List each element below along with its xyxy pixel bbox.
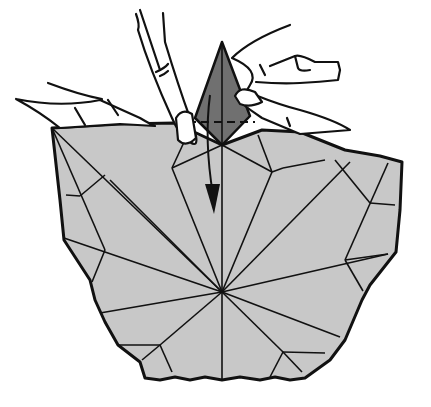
origami-diagram <box>0 0 431 407</box>
paper-base <box>52 123 402 380</box>
